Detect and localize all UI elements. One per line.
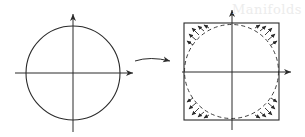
- bleed-through-text: Manifolds: [232, 2, 302, 17]
- circle-to-square-diagram: Manifolds: [0, 0, 305, 137]
- diagram-canvas: [0, 0, 305, 137]
- corner-arrows-bottom-left: [187, 98, 209, 118]
- corner-arrows-bottom-right: [255, 98, 277, 118]
- transform-arrow-icon: [135, 59, 170, 62]
- corner-arrows-top-right: [255, 25, 277, 45]
- right-square-panel: [182, 10, 291, 130]
- left-circle-panel: [15, 14, 133, 132]
- corner-arrows-top-left: [187, 25, 209, 45]
